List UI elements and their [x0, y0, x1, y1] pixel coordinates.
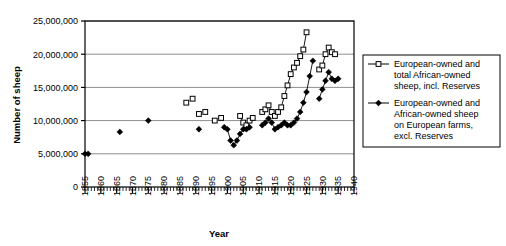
x-axis-tick-label: 1925 [302, 176, 312, 196]
data-point-open-square [282, 94, 287, 99]
y-axis-tick-label: 20,000,000 [33, 50, 78, 60]
data-point-open-square [301, 47, 306, 52]
legend-label-line: European-owned and [394, 98, 480, 108]
chart-legend: European-owned andtotal African-ownedshe… [363, 55, 500, 147]
x-axis-tick-label: 1935 [333, 176, 343, 196]
chart-figure: 05,000,00010,000,00015,000,00020,000,000… [0, 0, 506, 246]
x-axis-tick-label: 1870 [128, 176, 138, 196]
x-axis-tick-label: 1920 [286, 176, 296, 196]
data-point-open-square [376, 62, 381, 67]
data-point-open-square [219, 116, 224, 121]
y-axis-tick-label: 15,000,000 [33, 83, 78, 93]
x-axis-tick-label: 1940 [349, 176, 359, 196]
data-point-open-square [326, 45, 331, 50]
x-axis-tick-label: 1875 [143, 176, 153, 196]
x-axis-tick-label: 1915 [270, 176, 280, 196]
legend-label-line: total African-owned [394, 70, 471, 80]
data-point-open-square [203, 110, 208, 115]
legend-label-line: sheep, incl. Reserves [394, 81, 481, 91]
x-axis-tick-label: 1900 [223, 176, 233, 196]
x-axis-tick-label: 1905 [238, 176, 248, 196]
legend-label-line: African-owned sheep [394, 109, 479, 119]
data-point-open-square [320, 63, 325, 68]
sheep-population-scatter-chart: 05,000,00010,000,00015,000,00020,000,000… [0, 0, 506, 246]
data-point-open-square [238, 114, 243, 119]
x-axis-tick-label: 1890 [191, 176, 201, 196]
x-axis-title: Year [209, 228, 229, 239]
data-point-open-square [212, 118, 217, 123]
y-axis-tick-label: 25,000,000 [33, 16, 78, 26]
legend-label-line: excl. Reserves [394, 131, 454, 141]
data-point-open-square [295, 60, 300, 65]
data-point-open-square [288, 72, 293, 77]
data-point-open-square [298, 54, 303, 59]
data-point-open-square [285, 83, 290, 88]
y-axis-tick-label: 5,000,000 [38, 149, 78, 159]
data-point-open-square [279, 105, 284, 110]
data-point-open-square [190, 96, 195, 101]
y-axis-tick-label: 10,000,000 [33, 116, 78, 126]
legend-label-line: on European farms, [394, 120, 473, 130]
x-axis-tick-label: 1930 [318, 176, 328, 196]
x-axis-tick-label: 1885 [175, 176, 185, 196]
x-axis-tick-label: 1880 [159, 176, 169, 196]
x-axis-tick-label: 1860 [96, 176, 106, 196]
data-point-open-square [291, 65, 296, 70]
data-point-open-square [266, 103, 271, 108]
data-point-open-square [250, 116, 255, 121]
data-point-open-square [197, 112, 202, 117]
data-point-open-square [333, 52, 338, 57]
data-point-open-square [323, 52, 328, 57]
y-axis-tick-label: 0 [73, 182, 78, 192]
x-axis-tick-label: 1895 [207, 176, 217, 196]
x-axis-tick-label: 1865 [112, 176, 122, 196]
data-point-open-square [184, 100, 189, 105]
legend-label-line: European-owned and [394, 59, 480, 69]
data-point-open-square [304, 30, 309, 35]
x-axis-tick-label: 1910 [254, 176, 264, 196]
y-axis-title: Number of sheep [11, 66, 22, 144]
data-point-open-square [276, 110, 281, 115]
x-axis-tick-label: 1855 [80, 176, 90, 196]
